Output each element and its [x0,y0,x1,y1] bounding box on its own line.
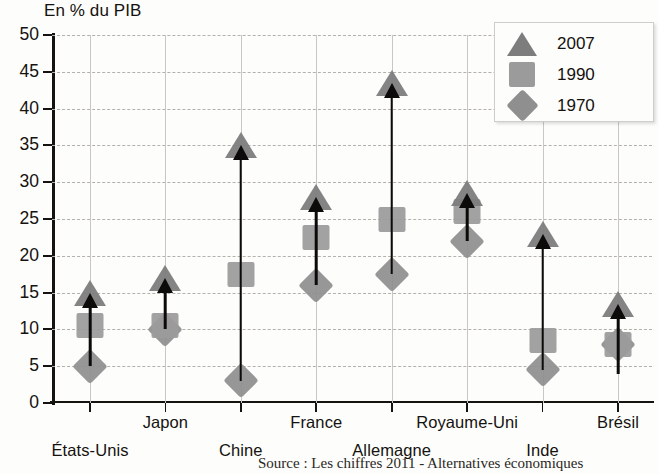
trend-arrow-shaft [617,316,620,374]
x-tick-mark [89,403,91,412]
gridline [165,35,166,403]
x-axis-label: Chine [219,441,263,460]
y-tick-mark [43,181,52,183]
gridline [52,182,652,183]
x-tick-mark [240,403,242,412]
trend-arrow-shaft [240,157,243,381]
y-tick-label: 5 [29,357,39,375]
y-tick-label: 25 [20,210,39,228]
y-tick-mark [43,328,52,330]
y-tick-label: 20 [20,247,39,265]
gridline [52,293,652,294]
source-note: Source : Les chiffres 2011 - Alternative… [258,455,583,472]
y-tick-mark [43,365,52,367]
x-axis-label: France [290,413,342,432]
chart-figure: En % du PIB 05101520253035404550 États-U… [0,0,659,474]
trend-arrow-shaft [541,246,544,370]
legend-item-1970[interactable]: 1970 [503,90,653,121]
legend: 200719901970 [494,22,654,122]
y-tick-label: 35 [20,137,39,155]
x-axis-label: Japon [143,413,188,432]
x-tick-mark [617,403,619,412]
x-tick-mark [165,403,167,412]
y-tick-label: 15 [20,284,39,302]
trend-arrow-shaft [89,305,92,367]
x-tick-mark [391,403,393,412]
trend-arrow-shaft [390,95,393,274]
x-tick-mark [542,403,544,412]
y-tick-label: 10 [20,321,39,339]
y-tick-mark [43,71,52,73]
trend-arrow-shaft [164,290,167,330]
y-tick-label: 0 [29,394,39,412]
legend-item-label: 2007 [557,34,595,54]
gridline [52,256,652,257]
square-icon [503,60,541,90]
y-tick-label: 45 [20,63,39,81]
y-tick-mark [43,255,52,257]
diamond-icon [503,91,541,121]
y-tick-label: 40 [20,100,39,118]
x-tick-mark [315,403,317,412]
y-tick-label: 30 [20,173,39,191]
x-axis-line [50,401,654,404]
y-tick-label: 50 [20,26,39,44]
legend-item-label: 1970 [557,96,595,116]
gridline [52,329,652,330]
y-tick-mark [43,218,52,220]
x-axis-label: Brésil [597,413,639,432]
y-tick-mark [43,108,52,110]
trend-arrow-shaft [315,209,318,285]
legend-item-2007[interactable]: 2007 [503,28,653,59]
x-axis-label: Royaume-Uni [416,413,518,432]
gridline [52,366,652,367]
gridline [52,145,652,146]
y-axis-title: En % du PIB [44,1,142,21]
trend-arrow-shaft [466,205,469,241]
gridline [52,219,652,220]
y-tick-mark [43,402,52,404]
y-tick-mark [43,34,52,36]
x-tick-mark [466,403,468,412]
legend-item-1990[interactable]: 1990 [503,59,653,90]
y-tick-mark [43,144,52,146]
x-axis-label: États-Unis [51,441,128,460]
legend-item-label: 1990 [557,65,595,85]
y-tick-mark [43,292,52,294]
triangle-icon [503,29,541,59]
